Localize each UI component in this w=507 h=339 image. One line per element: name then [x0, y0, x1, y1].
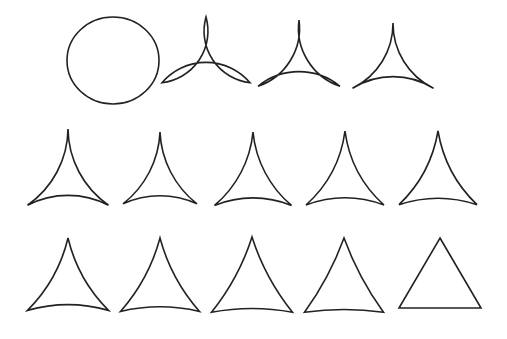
curved-triangle-shape	[123, 132, 197, 204]
row-circles	[67, 17, 434, 104]
curved-triangle-shape	[28, 238, 109, 310]
curved-triangle-shape	[353, 23, 434, 88]
curved-triangle-shape	[121, 238, 200, 311]
curved-triangle-shape	[306, 131, 384, 205]
row-triangles	[28, 237, 482, 312]
circle-shape	[67, 17, 159, 104]
curved-triangle-shape	[215, 132, 292, 205]
curved-triangle-shape	[305, 238, 384, 312]
curved-triangle-shape	[28, 129, 109, 205]
curved-triangle-shape	[162, 17, 250, 83]
curved-triangle-shape	[212, 237, 293, 312]
shape-morph-diagram	[0, 0, 507, 339]
curved-triangle-shape	[399, 131, 477, 205]
triangle-shape	[399, 238, 481, 308]
row-curved-triangles	[28, 129, 478, 205]
curved-triangle-shape	[258, 20, 340, 86]
